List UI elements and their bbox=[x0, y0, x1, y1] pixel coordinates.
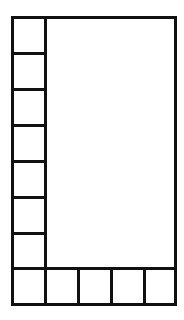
bottom-row-cell bbox=[77, 267, 113, 306]
main-area bbox=[44, 16, 177, 270]
left-column-cell bbox=[11, 196, 47, 235]
bottom-row-cell bbox=[143, 267, 177, 306]
left-column-cell bbox=[11, 124, 47, 163]
bottom-row-cell bbox=[44, 267, 80, 306]
left-column-cell bbox=[11, 232, 47, 271]
bottom-row-cell bbox=[110, 267, 146, 306]
left-column-cell bbox=[11, 52, 47, 91]
left-column-cell bbox=[11, 160, 47, 199]
left-column-cell bbox=[11, 88, 47, 127]
bottom-row-cell bbox=[11, 267, 47, 306]
left-column-cell bbox=[11, 16, 47, 55]
